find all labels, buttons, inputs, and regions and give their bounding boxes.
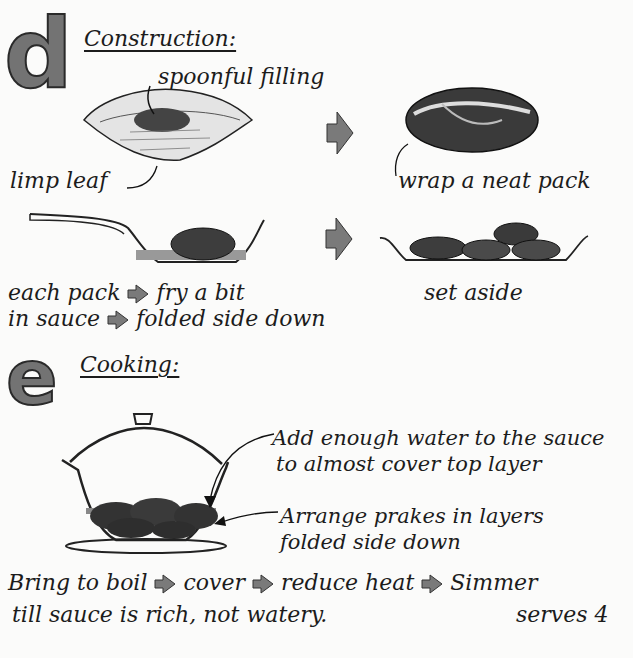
label-arrange-line2: folded side down (280, 530, 461, 554)
label-water-line2: to almost cover top layer (276, 452, 542, 476)
text-in-sauce: in sauce (8, 306, 100, 331)
section-letter-e: e (6, 340, 58, 416)
cooking-heading: Cooking: (80, 352, 179, 377)
label-wrap-pack: wrap a neat pack (398, 168, 591, 193)
text-each-pack: each pack (8, 280, 120, 305)
fry-instruction-line2: in sauce folded side down (8, 306, 325, 331)
platter-with-packs-illustration (376, 218, 591, 268)
arrow-right-icon (154, 574, 176, 594)
label-serves: serves 4 (516, 602, 609, 627)
text-simmer: Simmer (450, 570, 537, 595)
wrapped-pack-illustration (402, 84, 542, 156)
label-set-aside: set aside (424, 280, 523, 305)
final-instruction-line2: till sauce is rich, not watery. (12, 602, 327, 627)
water-pointer-arrow (200, 430, 280, 510)
leaf-with-filling-illustration (80, 80, 260, 170)
fry-instruction-line1: each pack fry a bit (8, 280, 245, 305)
limp-leaf-pointer (125, 162, 165, 192)
arrow-right-icon (421, 574, 443, 594)
arrow-right-icon (324, 216, 354, 262)
text-bring-to-boil: Bring to boil (8, 570, 147, 595)
text-reduce-heat: reduce heat (281, 570, 414, 595)
label-limp-leaf: limp leaf (10, 168, 107, 193)
arrow-right-icon (325, 110, 355, 156)
arrow-right-icon (127, 284, 149, 304)
arrange-pointer-arrow (210, 508, 280, 528)
section-letter-d: d (4, 6, 73, 102)
text-fry-a-bit: fry a bit (156, 280, 244, 305)
text-folded-side-down: folded side down (136, 306, 325, 331)
arrow-right-icon (252, 574, 274, 594)
label-arrange-line1: Arrange prakes in layers (280, 504, 544, 528)
construction-heading: Construction: (84, 26, 236, 51)
frying-pan-illustration (26, 210, 271, 270)
arrow-right-icon (107, 310, 129, 330)
final-instruction-line1: Bring to boil cover reduce heat Simmer (8, 570, 538, 595)
label-water-line1: Add enough water to the sauce (272, 426, 604, 450)
text-cover: cover (183, 570, 245, 595)
